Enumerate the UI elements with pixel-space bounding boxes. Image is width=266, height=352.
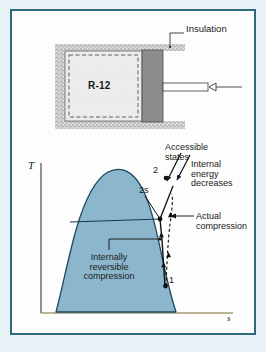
- state-label-1: 1: [169, 276, 174, 286]
- force-arrow-icon: [209, 83, 242, 91]
- saturation-dome: [56, 169, 176, 312]
- device-diagram: [55, 33, 242, 129]
- substance-label: R-12: [88, 81, 110, 92]
- reversible-arrow-icon-2: [159, 232, 164, 237]
- piston: [142, 50, 163, 122]
- internal-energy-decreases-label: Internal energy decreases: [191, 160, 233, 189]
- state-point-2s: [158, 217, 163, 222]
- axis-label-temperature: T: [28, 160, 34, 172]
- actual-compression-path: [166, 194, 172, 286]
- figure-root: Insulation R-12 Accessible states Intern…: [0, 0, 266, 352]
- state-label-2s: 2s: [139, 186, 149, 196]
- actual-arrow-icon: [166, 252, 171, 257]
- actual-compression-label: Actual compression: [196, 212, 247, 231]
- state-point-1: [163, 284, 168, 289]
- axis-label-entropy: s: [227, 314, 231, 324]
- internally-reversible-compression-label: Internally reversible compression: [72, 253, 146, 282]
- insulation-label: Insulation: [186, 24, 227, 34]
- piston-rod: [163, 83, 208, 91]
- actual-compression-leader: [170, 213, 194, 218]
- state-label-2: 2: [153, 166, 158, 176]
